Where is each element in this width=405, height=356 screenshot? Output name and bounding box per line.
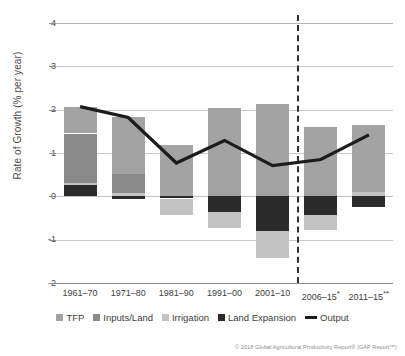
x-tick-label: 2006–15* <box>297 288 345 303</box>
y-tick-mark--2 <box>49 283 56 284</box>
y-tick-mark-3 <box>49 66 56 67</box>
x-tick-label: 2011–15** <box>345 288 393 303</box>
output-line-path <box>80 107 369 166</box>
legend-label: Inputs/Land <box>103 312 153 323</box>
x-tick-label: 1981–90 <box>152 288 200 299</box>
legend-label: TFP <box>66 312 84 323</box>
x-tick-label: 1961–70 <box>56 288 104 299</box>
gridline--2 <box>56 283 393 284</box>
x-tick-label: 1971–80 <box>104 288 152 299</box>
legend-item[interactable]: Land Expansion <box>218 312 296 323</box>
legend-item[interactable]: Irrigation <box>162 312 209 323</box>
legend-swatch-icon <box>56 314 63 321</box>
y-axis-title: Rate of Growth (% per year) <box>12 1 23 231</box>
legend-swatch-icon <box>218 314 225 321</box>
x-axis-tick-labels: 1961–701971–801981–901991–002001–102006–… <box>56 288 393 304</box>
plot-area <box>56 23 393 283</box>
legend-label: Output <box>320 312 349 323</box>
legend-item[interactable]: Inputs/Land <box>93 312 153 323</box>
legend-item[interactable]: TFP <box>56 312 84 323</box>
legend-swatch-icon <box>93 314 100 321</box>
footer-copyright: © 2018 Global Agricultural Productivity … <box>235 344 397 350</box>
y-tick-mark--1 <box>49 240 56 241</box>
x-tick-label: 1991–00 <box>200 288 248 299</box>
legend-swatch-icon <box>162 314 169 321</box>
x-tick-label: 2001–10 <box>249 288 297 299</box>
legend-item[interactable]: Output <box>305 312 349 323</box>
y-tick-mark-4 <box>49 23 56 24</box>
output-line-series <box>56 23 393 283</box>
chart-container: Rate of Growth (% per year) 43210-1-2 19… <box>0 0 405 356</box>
legend-label: Land Expansion <box>228 312 296 323</box>
chart-legend: TFPInputs/LandIrrigationLand ExpansionOu… <box>0 312 405 323</box>
legend-line-icon <box>305 316 317 319</box>
y-tick-mark-2 <box>49 110 56 111</box>
y-tick-mark-1 <box>49 153 56 154</box>
legend-label: Irrigation <box>172 312 209 323</box>
y-tick-mark-0 <box>49 196 56 197</box>
